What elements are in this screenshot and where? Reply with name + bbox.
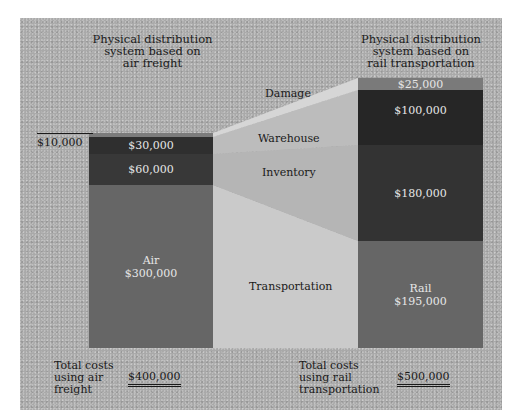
- left-total-value: $400,000: [128, 370, 181, 387]
- category-label-warehouse: Warehouse: [258, 132, 320, 145]
- right-bar-inventory-segment: $180,000: [358, 145, 483, 241]
- right-transport-value: $195,000: [394, 295, 447, 308]
- left-damage-value: $10,000: [37, 136, 83, 149]
- category-label-damage: Damage: [265, 87, 311, 100]
- category-label-inventory: Inventory: [262, 166, 316, 179]
- left-bar-transport-segment: Air $300,000: [89, 185, 213, 348]
- left-transport-name: Air: [143, 254, 160, 267]
- left-total-label: Total costs using air freight: [54, 360, 114, 396]
- right-warehouse-value: $100,000: [394, 104, 447, 117]
- left-total-line-3: freight: [54, 384, 114, 396]
- right-total-line-3: transportation: [299, 384, 380, 396]
- right-inventory-value: $180,000: [394, 187, 447, 200]
- left-bar-warehouse-segment: $30,000: [89, 137, 213, 154]
- left-inventory-value: $60,000: [128, 163, 174, 176]
- right-bar-transport-segment: Rail $195,000: [358, 241, 483, 348]
- left-transport-value: $300,000: [125, 267, 178, 280]
- damage-callout-line: [37, 133, 93, 134]
- right-bar-damage-segment: $25,000: [358, 78, 483, 90]
- right-bar-warehouse-segment: $100,000: [358, 90, 483, 145]
- right-transport-name: Rail: [409, 282, 431, 295]
- right-total-value: $500,000: [397, 370, 450, 387]
- left-warehouse-value: $30,000: [128, 139, 174, 152]
- left-bar-inventory-segment: $60,000: [89, 154, 213, 185]
- right-total-label: Total costs using rail transportation: [299, 360, 380, 396]
- category-label-transportation: Transportation: [249, 280, 332, 293]
- right-damage-value: $25,000: [398, 78, 444, 91]
